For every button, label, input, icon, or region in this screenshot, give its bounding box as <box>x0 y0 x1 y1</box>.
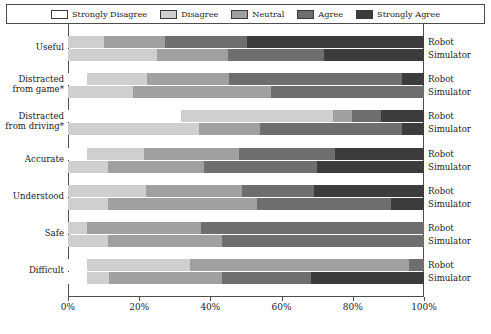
bar-segment-d[interactable] <box>68 222 87 234</box>
y-axis-category-label: Understood <box>0 191 64 201</box>
bar-segment-d[interactable] <box>87 259 190 271</box>
y-label-line-2: from game* <box>0 84 64 94</box>
bar-segment-a[interactable] <box>222 272 311 284</box>
stacked-bar[interactable] <box>68 185 424 197</box>
bar-segment-n[interactable] <box>333 110 352 122</box>
bar-groups-layer: UsefulRobotSimulatorDistractedfrom game*… <box>0 0 491 334</box>
bar-segment-d[interactable] <box>68 235 108 247</box>
bar-segment-a[interactable] <box>352 110 381 122</box>
bar-segment-d[interactable] <box>181 110 333 122</box>
stacked-bar[interactable] <box>68 86 424 98</box>
bar-segment-sa[interactable] <box>311 272 424 284</box>
bar-segment-sd[interactable] <box>68 73 87 85</box>
legend-item-d[interactable]: Disagree <box>160 10 218 19</box>
series-label-simulator: Simulator <box>428 124 471 134</box>
bar-segment-n[interactable] <box>108 161 204 173</box>
bar-segment-a[interactable] <box>271 86 424 98</box>
stacked-bar[interactable] <box>68 73 424 85</box>
legend-swatch-icon-n <box>231 10 248 19</box>
stacked-bar[interactable] <box>68 272 424 284</box>
legend-label: Neutral <box>252 10 284 18</box>
bar-segment-sd[interactable] <box>68 110 181 122</box>
bar-segment-d[interactable] <box>68 185 146 197</box>
bar-segment-n[interactable] <box>146 185 242 197</box>
bar-segment-a[interactable] <box>165 36 247 48</box>
series-label-simulator: Simulator <box>428 199 471 209</box>
bar-segment-sd[interactable] <box>68 148 87 160</box>
bar-segment-a[interactable] <box>229 73 402 85</box>
bar-segment-d[interactable] <box>68 198 108 210</box>
bar-segment-d[interactable] <box>68 86 133 98</box>
bar-segment-a[interactable] <box>201 222 424 234</box>
series-label-simulator: Simulator <box>428 273 471 283</box>
bar-segment-n[interactable] <box>108 235 222 247</box>
series-label-robot: Robot <box>428 149 454 159</box>
bar-segment-sa[interactable] <box>317 161 424 173</box>
x-axis-tick <box>210 297 211 301</box>
bar-segment-a[interactable] <box>409 259 424 271</box>
bar-segment-a[interactable] <box>260 123 402 135</box>
legend-item-a[interactable]: Agree <box>297 10 343 19</box>
bar-segment-d[interactable] <box>87 148 144 160</box>
bar-segment-d[interactable] <box>87 73 148 85</box>
bar-segment-a[interactable] <box>239 148 335 160</box>
bar-segment-d[interactable] <box>87 272 109 284</box>
legend-item-sd[interactable]: Strongly Disagree <box>51 10 147 19</box>
bar-segment-n[interactable] <box>104 36 165 48</box>
bar-segment-n[interactable] <box>109 272 222 284</box>
y-label-line-1: Difficult <box>29 265 64 275</box>
bar-segment-a[interactable] <box>228 49 324 61</box>
y-label-line-1: Safe <box>45 228 64 238</box>
bar-segment-a[interactable] <box>204 161 318 173</box>
bar-segment-n[interactable] <box>108 198 257 210</box>
bar-segment-n[interactable] <box>147 73 229 85</box>
legend-item-n[interactable]: Neutral <box>231 10 284 19</box>
bar-segment-d[interactable] <box>68 49 157 61</box>
y-axis-category-label: Difficult <box>0 265 64 275</box>
bar-segment-n[interactable] <box>87 222 201 234</box>
bar-segment-sa[interactable] <box>247 36 424 48</box>
bar-segment-sa[interactable] <box>314 185 424 197</box>
legend-item-sa[interactable]: Strongly Agree <box>356 10 440 19</box>
bar-segment-a[interactable] <box>242 185 313 197</box>
bar-segment-n[interactable] <box>144 148 240 160</box>
stacked-bar[interactable] <box>68 235 424 247</box>
stacked-bar[interactable] <box>68 222 424 234</box>
series-label-robot: Robot <box>428 37 454 47</box>
bar-segment-d[interactable] <box>68 161 108 173</box>
stacked-bar[interactable] <box>68 198 424 210</box>
series-label-robot: Robot <box>428 186 454 196</box>
series-label-robot: Robot <box>428 260 454 270</box>
x-axis-tick <box>282 297 283 301</box>
x-axis-tick-label: 80% <box>343 302 363 312</box>
bar-segment-sa[interactable] <box>335 148 424 160</box>
stacked-bar[interactable] <box>68 110 424 122</box>
bar-segment-n[interactable] <box>157 49 228 61</box>
bar-segment-sd[interactable] <box>68 272 87 284</box>
bar-segment-sa[interactable] <box>324 49 424 61</box>
bar-segment-a[interactable] <box>222 235 424 247</box>
stacked-bar[interactable] <box>68 49 424 61</box>
y-axis-category-label: Useful <box>0 42 64 52</box>
bar-segment-n[interactable] <box>190 259 409 271</box>
likert-stacked-bar-chart: Strongly DisagreeDisagreeNeutralAgreeStr… <box>0 0 491 334</box>
bar-segment-d[interactable] <box>68 36 104 48</box>
stacked-bar[interactable] <box>68 259 424 271</box>
stacked-bar[interactable] <box>68 148 424 160</box>
y-axis-category-label: Distractedfrom game* <box>0 74 64 94</box>
bar-segment-n[interactable] <box>199 123 260 135</box>
bar-segment-d[interactable] <box>68 123 199 135</box>
bar-segment-sa[interactable] <box>391 198 424 210</box>
y-label-line-1: Distracted <box>18 74 64 84</box>
stacked-bar[interactable] <box>68 161 424 173</box>
bar-segment-sa[interactable] <box>402 73 424 85</box>
bar-segment-sd[interactable] <box>68 259 87 271</box>
series-label-robot: Robot <box>428 223 454 233</box>
bar-segment-a[interactable] <box>257 198 392 210</box>
bar-segment-n[interactable] <box>133 86 272 98</box>
bar-segment-sa[interactable] <box>402 123 424 135</box>
bar-segment-sa[interactable] <box>381 110 424 122</box>
chart-legend: Strongly DisagreeDisagreeNeutralAgreeStr… <box>6 4 485 24</box>
stacked-bar[interactable] <box>68 123 424 135</box>
stacked-bar[interactable] <box>68 36 424 48</box>
